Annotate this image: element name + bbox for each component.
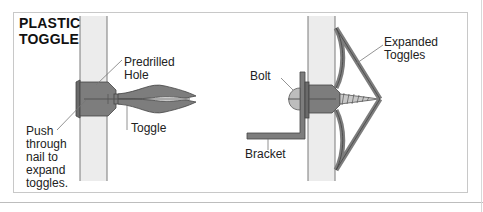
plastic-toggle-unexpanded-icon [76, 80, 196, 118]
screw-icon [340, 93, 378, 105]
label-push-through: Push through nail to expand toggles. [26, 125, 68, 190]
label-bracket: Bracket [245, 148, 286, 161]
bolt-head-icon [288, 82, 309, 118]
label-predrilled-hole: Predrilled Hole [124, 56, 175, 82]
toggle-body-icon [309, 85, 340, 113]
diagram-title: PLASTIC TOGGLE [19, 15, 80, 47]
label-bolt: Bolt [250, 70, 271, 83]
label-expanded-toggles: Expanded Toggles [384, 36, 438, 62]
label-toggle: Toggle [131, 122, 166, 135]
